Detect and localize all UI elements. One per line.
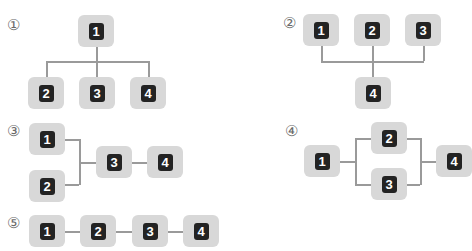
node-4: 4	[436, 145, 472, 177]
node-number-badge: 3	[90, 85, 105, 102]
node-4: 4	[355, 77, 391, 109]
node-number-badge: 3	[416, 22, 431, 39]
node-3: 3	[79, 77, 115, 109]
connector	[46, 61, 149, 63]
connector	[64, 184, 79, 186]
connector	[79, 162, 96, 164]
node-number-badge: 4	[194, 223, 209, 240]
node-number-badge: 3	[382, 176, 397, 193]
node-3: 3	[371, 168, 407, 200]
node-2: 2	[28, 77, 64, 109]
connector	[321, 61, 424, 63]
diagram-label-2: ②	[283, 16, 296, 31]
node-number-badge: 2	[39, 85, 54, 102]
connector	[355, 138, 371, 140]
connector	[96, 47, 98, 61]
diagram-label-5: ⑤	[7, 216, 20, 231]
node-4: 4	[183, 215, 219, 247]
node-number-badge: 1	[40, 223, 55, 240]
diagram-label-3: ③	[7, 124, 20, 139]
connector	[132, 162, 147, 164]
node-4: 4	[130, 77, 166, 109]
node-number-badge: 2	[365, 22, 380, 39]
node-3: 3	[96, 146, 132, 178]
node-1: 1	[78, 15, 114, 47]
node-number-badge: 1	[89, 23, 104, 40]
connector	[64, 139, 79, 141]
connector	[420, 161, 437, 163]
connector	[406, 138, 420, 140]
node-1: 1	[29, 215, 65, 247]
node-number-badge: 1	[315, 153, 330, 170]
node-number-badge: 4	[447, 153, 462, 170]
node-2: 2	[354, 14, 390, 46]
connector	[64, 231, 80, 233]
node-number-badge: 4	[158, 154, 173, 171]
connector	[406, 184, 420, 186]
connector	[321, 46, 323, 61]
node-number-badge: 3	[143, 223, 158, 240]
node-number-badge: 4	[141, 85, 156, 102]
node-number-badge: 4	[366, 85, 381, 102]
node-2: 2	[29, 170, 65, 202]
connector	[116, 231, 132, 233]
connector	[355, 184, 371, 186]
node-3: 3	[405, 14, 441, 46]
node-number-badge: 3	[107, 154, 122, 171]
node-4: 4	[147, 146, 183, 178]
node-1: 1	[303, 14, 339, 46]
node-number-badge: 1	[40, 131, 55, 148]
connector	[46, 61, 48, 77]
connector	[355, 138, 357, 185]
connector	[168, 231, 183, 233]
connector	[96, 61, 98, 77]
node-number-badge: 1	[314, 22, 329, 39]
connector	[340, 161, 355, 163]
node-number-badge: 2	[40, 178, 55, 195]
connector	[423, 46, 425, 61]
node-1: 1	[29, 123, 65, 155]
diagram-label-1: ①	[7, 18, 20, 33]
node-2: 2	[80, 215, 116, 247]
connector	[148, 61, 150, 77]
node-3: 3	[132, 215, 168, 247]
node-1: 1	[304, 145, 340, 177]
node-number-badge: 2	[382, 130, 397, 147]
node-number-badge: 2	[91, 223, 106, 240]
node-2: 2	[371, 122, 407, 154]
diagram-label-4: ④	[285, 124, 298, 139]
